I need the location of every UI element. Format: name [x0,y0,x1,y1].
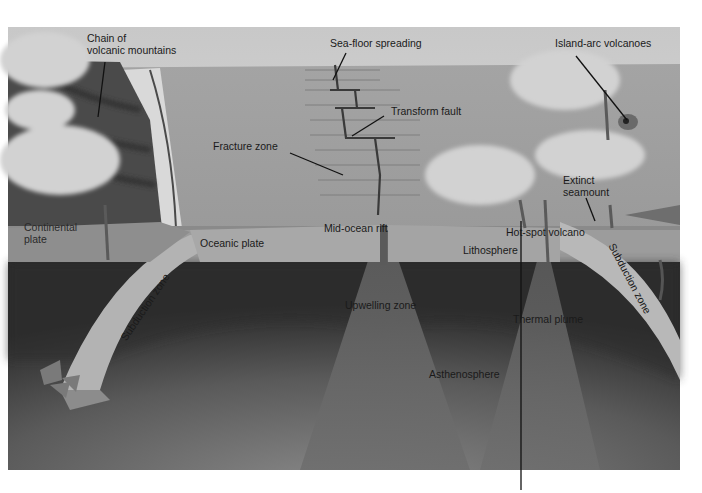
label-line: Extinct [563,174,609,186]
label-mid-ocean-rift: Mid-ocean rift [324,222,388,234]
label-island-arc-volcanoes: Island-arc volcanoes [555,37,651,49]
label-upwelling-zone: Upwelling zone [345,299,416,311]
label-asthenosphere: Asthenosphere [429,368,500,380]
label-thermal-plume: Thermal plume [513,313,583,325]
label-oceanic-plate: Oceanic plate [200,237,264,249]
label-line: seamount [563,186,609,198]
label-continental-plate: Continental plate [24,221,77,245]
label-line: volcanic mountains [87,44,176,56]
label-fracture-zone: Fracture zone [213,140,278,152]
diagram-frame [0,27,680,470]
tectonics-diagram: Chain of volcanic mountains Sea-floor sp… [0,0,702,493]
label-sea-floor-spreading: Sea-floor spreading [330,37,422,49]
label-transform-fault: Transform fault [391,105,461,117]
label-chain-of-volcanic-mountains: Chain of volcanic mountains [87,32,176,56]
label-extinct-seamount: Extinct seamount [563,174,609,198]
label-lithosphere: Lithosphere [463,244,518,256]
label-line: Continental [24,221,77,233]
label-hot-spot-volcano: Hot-spot volcano [506,226,585,238]
label-line: plate [24,233,77,245]
label-line: Chain of [87,32,176,44]
diagram-illustration [0,0,702,493]
